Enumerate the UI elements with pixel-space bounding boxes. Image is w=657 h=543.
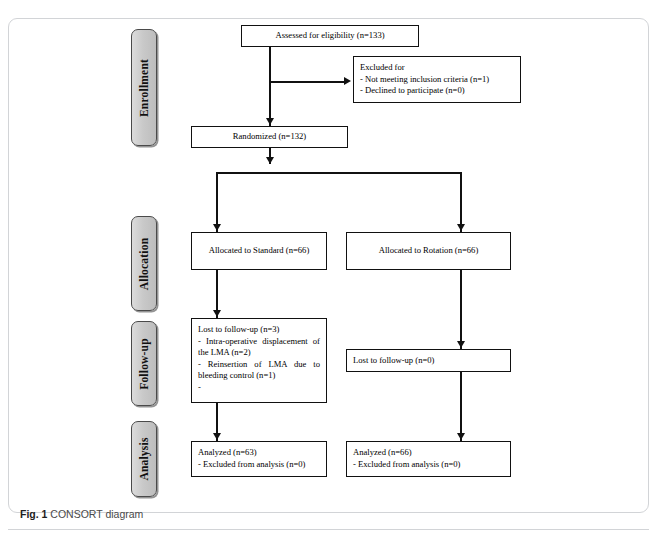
arrowhead-into-excluded	[344, 77, 351, 85]
connector-split-right-drop	[460, 172, 462, 232]
box-allocated-standard: Allocated to Standard (n=66)	[191, 232, 327, 270]
box-randomized: Randomized (n=132)	[191, 126, 348, 148]
connector-alloc-right-to-lost-right	[460, 270, 462, 349]
figure-caption-bar: Fig. 1 CONSORT diagram	[8, 505, 649, 529]
stage-bar-allocation: Allocation	[131, 216, 157, 311]
assessed-text: Assessed for eligibility (n=133)	[275, 30, 384, 42]
alloc-right-text: Allocated to Rotation (n=66)	[379, 245, 479, 257]
box-analyzed-standard: Analyzed (n=63) - Excluded from analysis…	[191, 441, 327, 477]
arrowhead-into-lost-right	[457, 341, 465, 348]
excluded-line-1: Excluded for	[360, 62, 514, 74]
box-assessed-for-eligibility: Assessed for eligibility (n=133)	[241, 25, 419, 47]
stage-label-enrollment: Enrollment	[138, 58, 150, 116]
randomized-text: Randomized (n=132)	[233, 131, 306, 143]
box-allocated-rotation: Allocated to Rotation (n=66)	[346, 232, 511, 270]
lost-left-line-4: -	[198, 382, 320, 394]
analyzed-left-line-2: - Excluded from analysis (n=0)	[198, 459, 320, 471]
arrowhead-into-analyzed-right	[457, 433, 465, 440]
box-excluded: Excluded for - Not meeting inclusion cri…	[353, 56, 521, 103]
box-lost-followup-standard: Lost to follow-up (n=3) - Intra-operativ…	[191, 318, 327, 403]
analyzed-right-line-2: - Excluded from analysis (n=0)	[353, 459, 504, 471]
connector-split-left-drop	[216, 172, 218, 232]
box-lost-followup-rotation: Lost to follow-up (n=0)	[346, 349, 511, 372]
stage-label-analysis: Analysis	[138, 437, 150, 480]
figure-caption: Fig. 1 CONSORT diagram	[20, 508, 143, 520]
arrowhead-into-alloc-left	[213, 224, 221, 231]
stage-label-allocation: Allocation	[138, 237, 150, 289]
box-analyzed-rotation: Analyzed (n=66) - Excluded from analysis…	[346, 441, 511, 477]
alloc-left-text: Allocated to Standard (n=66)	[209, 245, 310, 257]
lost-left-line-2: - Intra-operative displacement of the LM…	[198, 336, 320, 359]
arrowhead-into-alloc-right	[457, 224, 465, 231]
lost-left-line-1: Lost to follow-up (n=3)	[198, 324, 320, 336]
connector-assessed-to-randomized	[269, 47, 271, 126]
scan-top-bleed-text	[0, 0, 657, 12]
connector-lost-right-to-analyzed-right	[460, 372, 462, 441]
stage-bar-analysis: Analysis	[131, 421, 157, 497]
lost-right-text: Lost to follow-up (n=0)	[353, 355, 434, 367]
stage-bar-followup: Follow-up	[131, 321, 157, 406]
arrowhead-into-lost-left	[213, 310, 221, 317]
consort-figure-card: Enrollment Allocation Follow-up Analysis…	[8, 18, 649, 513]
excluded-line-3: - Declined to participate (n=0)	[360, 85, 514, 97]
arrowhead-into-analyzed-left	[213, 433, 221, 440]
arrowhead-randomized-stub	[266, 157, 274, 164]
stage-label-followup: Follow-up	[138, 338, 150, 390]
analyzed-right-line-1: Analyzed (n=66)	[353, 447, 504, 459]
connector-split-horizontal	[216, 172, 462, 174]
arrowhead-into-randomized	[266, 118, 274, 125]
lost-left-line-3: - Reinsertion of LMA due to bleeding con…	[198, 359, 320, 382]
stage-bar-enrollment: Enrollment	[131, 29, 157, 146]
figure-caption-label: Fig. 1	[20, 508, 47, 520]
connector-to-excluded	[269, 81, 346, 83]
caption-divider	[8, 529, 649, 530]
figure-caption-text: CONSORT diagram	[50, 508, 143, 520]
excluded-line-2: - Not meeting inclusion criteria (n=1)	[360, 74, 514, 86]
analyzed-left-line-1: Analyzed (n=63)	[198, 447, 320, 459]
